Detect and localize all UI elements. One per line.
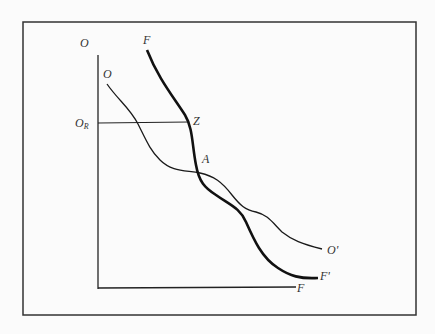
point-z-label: Z [193, 114, 200, 129]
curve-f [147, 50, 318, 278]
level-sub-text: R [84, 122, 89, 131]
curve-o-start-label: O [103, 67, 112, 82]
curve-o [107, 84, 322, 249]
level-main-text: O [75, 116, 84, 130]
diagram-canvas [0, 0, 435, 334]
y-axis-label: O [80, 36, 89, 51]
point-a-label: A [202, 152, 209, 167]
x-axis-label: F [297, 281, 304, 296]
or-level-line [98, 122, 189, 123]
curve-f-start-label: F [143, 33, 150, 48]
curve-f-end-label: F' [320, 269, 330, 284]
level-or-label: OR [75, 116, 89, 131]
curve-o-end-label: O' [327, 243, 338, 258]
x-axis [98, 287, 296, 288]
frame [23, 22, 416, 315]
